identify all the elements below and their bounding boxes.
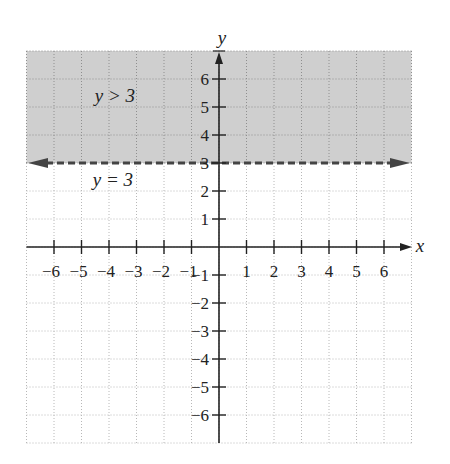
y-tick-label: 2	[201, 182, 210, 201]
x-tick-label: −3	[124, 262, 142, 281]
x-tick-label: 2	[270, 262, 279, 281]
x-tick-label: 1	[242, 262, 251, 281]
y-tick-label: −6	[191, 406, 209, 425]
x-tick-label: −5	[69, 262, 87, 281]
y-tick-label: 6	[201, 70, 210, 89]
x-tick-label: 5	[352, 262, 361, 281]
y-tick-label: 5	[201, 98, 210, 117]
y-tick-label: −3	[191, 322, 209, 341]
x-tick-label: −2	[152, 262, 170, 281]
inequality-graph: −6−5−4−3−2−1123456−6−5−4−3−2−1123456 y x…	[0, 0, 450, 464]
boundary-label: y = 3	[91, 169, 133, 190]
region-label: y > 3	[93, 85, 135, 106]
y-axis-label: y	[216, 27, 227, 48]
x-tick-label: 6	[380, 262, 389, 281]
y-tick-label: −5	[191, 378, 209, 397]
x-tick-label: 4	[325, 262, 334, 281]
y-tick-label: 4	[201, 126, 210, 145]
x-axis-label: x	[415, 235, 425, 256]
x-tick-label: −6	[42, 262, 60, 281]
y-tick-label: −2	[191, 294, 209, 313]
x-axis-arrow-icon	[400, 243, 412, 251]
y-tick-label: 1	[201, 210, 210, 229]
x-tick-label: −4	[97, 262, 116, 281]
y-tick-label: −4	[191, 350, 210, 369]
y-tick-label: −1	[191, 266, 209, 285]
x-tick-label: 3	[297, 262, 306, 281]
y-tick-label: 3	[201, 154, 210, 173]
